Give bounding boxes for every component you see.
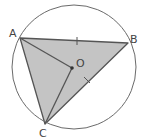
triangle-abc xyxy=(20,38,128,124)
label-o: O xyxy=(76,57,85,70)
label-b: B xyxy=(130,33,138,46)
circle-triangle-diagram: A B C O xyxy=(0,0,141,139)
center-point-o xyxy=(70,66,74,70)
label-c: C xyxy=(39,127,47,139)
label-a: A xyxy=(9,27,17,40)
